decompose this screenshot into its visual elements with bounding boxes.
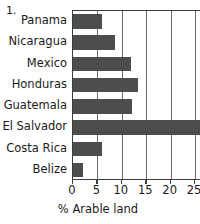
x-axis-title: % Arable land — [0, 202, 196, 216]
bar-row — [73, 96, 200, 117]
category-label: Belize — [33, 159, 67, 180]
bar — [73, 163, 83, 178]
x-tick-label: 5 — [93, 184, 100, 197]
bar — [73, 142, 102, 157]
bar — [73, 99, 132, 114]
bar-row — [73, 11, 200, 32]
bar-row — [73, 160, 200, 180]
bar — [73, 78, 138, 93]
x-tick-label: 20 — [162, 184, 177, 197]
bar-row — [73, 139, 200, 160]
bar-row — [73, 75, 200, 96]
bar-row — [73, 32, 200, 53]
x-tick-label: 25 — [187, 184, 200, 197]
plot-area — [72, 10, 200, 180]
category-label: Costa Rica — [6, 138, 67, 159]
category-label: Nicaragua — [8, 31, 67, 52]
category-label: El Salvador — [2, 116, 67, 137]
category-label: Panama — [21, 10, 67, 31]
bar — [73, 57, 131, 72]
x-tick-label: 10 — [114, 184, 129, 197]
bar-row — [73, 54, 200, 75]
x-tick-label: 0 — [68, 184, 75, 197]
category-label: Guatemala — [4, 95, 67, 116]
bar-chart-figure: 1. PanamaNicaraguaMexicoHondurasGuatemal… — [0, 0, 200, 224]
bar — [73, 35, 115, 50]
category-axis: PanamaNicaraguaMexicoHondurasGuatemalaEl… — [0, 10, 70, 180]
x-tick-label: 15 — [138, 184, 153, 197]
category-label: Mexico — [27, 53, 67, 74]
bar — [73, 120, 200, 135]
bar — [73, 14, 102, 29]
category-label: Honduras — [12, 74, 67, 95]
x-axis: 05101520253 — [72, 180, 200, 200]
bar-row — [73, 117, 200, 138]
